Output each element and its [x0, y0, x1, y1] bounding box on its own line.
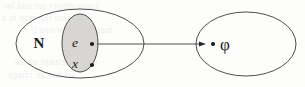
mapping-arrow-head	[199, 42, 206, 47]
outer-set-label: N	[34, 35, 45, 51]
point-dot-phi	[211, 42, 215, 46]
point-dot-e	[90, 42, 94, 46]
point-label-phi: φ	[220, 35, 230, 54]
point-label-x: x	[71, 56, 78, 71]
set-mapping-diagram: a non-empty set and let this case the ma…	[0, 0, 305, 87]
point-dot-x	[90, 63, 94, 67]
point-label-e: e	[72, 35, 78, 50]
